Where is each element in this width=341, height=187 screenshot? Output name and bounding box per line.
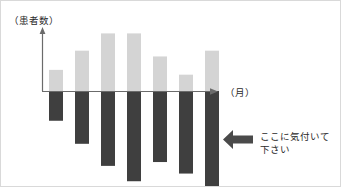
bar-positive: [179, 75, 193, 91]
annotation-callout: ここに気付いて 下さい: [223, 129, 330, 156]
chart-figure: （患者数） （月） ここに気付いて 下さい: [0, 0, 341, 187]
bar-negative: [127, 91, 141, 181]
arrow-left-icon: [223, 129, 253, 150]
bar-negative: [101, 91, 115, 166]
bar-positive: [49, 70, 63, 91]
annotation-text: ここに気付いて 下さい: [260, 129, 330, 156]
bar-negative: [49, 91, 63, 121]
bar-chart-plot: [1, 1, 341, 187]
bar-positive: [205, 51, 219, 91]
bar-positive: [127, 33, 141, 91]
bars-group: [49, 33, 219, 187]
bar-positive: [75, 51, 89, 91]
x-axis-label: （月）: [225, 85, 255, 99]
bar-negative: [153, 91, 167, 162]
bar-negative: [179, 91, 193, 174]
bar-negative: [75, 91, 89, 144]
bar-negative: [205, 91, 219, 187]
bar-positive: [153, 56, 167, 91]
y-axis-arrowhead: [40, 27, 46, 34]
y-axis-label: （患者数）: [9, 13, 59, 27]
bar-positive: [101, 33, 115, 91]
